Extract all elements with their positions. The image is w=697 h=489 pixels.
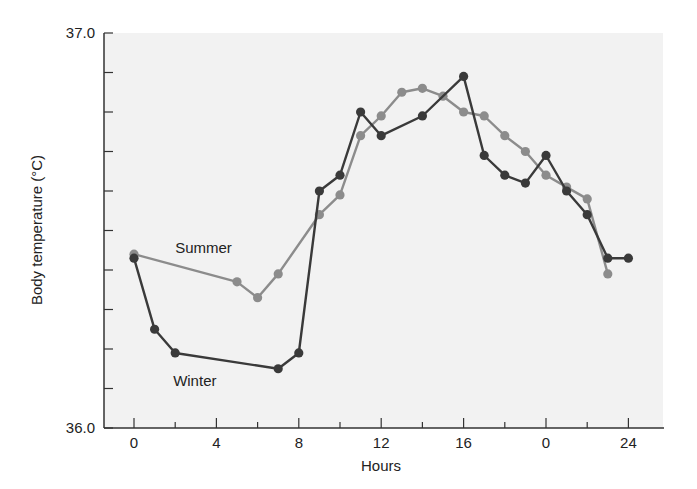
data-point-marker xyxy=(603,254,612,263)
data-point-marker xyxy=(377,111,386,120)
data-point-marker xyxy=(397,88,406,97)
y-axis-title: Body temperature (°C) xyxy=(28,155,45,305)
x-tick-label: 12 xyxy=(373,434,390,451)
data-point-marker xyxy=(583,194,592,203)
plot-background xyxy=(104,33,663,428)
x-tick-label: 24 xyxy=(620,434,637,451)
data-point-marker xyxy=(480,151,489,160)
data-point-marker xyxy=(541,171,550,180)
data-point-marker xyxy=(377,131,386,140)
data-point-marker xyxy=(624,254,633,263)
data-point-marker xyxy=(459,107,468,116)
data-point-marker xyxy=(335,190,344,199)
data-point-marker xyxy=(480,111,489,120)
x-tick-label: 4 xyxy=(212,434,220,451)
data-point-marker xyxy=(541,151,550,160)
data-point-marker xyxy=(171,348,180,357)
data-point-marker xyxy=(583,210,592,219)
x-tick-label: 16 xyxy=(455,434,472,451)
x-tick-label: 0 xyxy=(130,434,138,451)
series-label-winter: Winter xyxy=(173,372,216,389)
data-point-marker xyxy=(418,84,427,93)
x-tick-label: 8 xyxy=(295,434,303,451)
data-point-marker xyxy=(356,131,365,140)
data-point-marker xyxy=(603,269,612,278)
data-point-marker xyxy=(521,179,530,188)
data-point-marker xyxy=(294,348,303,357)
data-point-marker xyxy=(356,107,365,116)
data-point-marker xyxy=(335,171,344,180)
data-point-marker xyxy=(418,111,427,120)
body-temperature-chart: 36.037.00481216024 SummerWinter Body tem… xyxy=(0,0,697,489)
data-point-marker xyxy=(315,186,324,195)
data-point-marker xyxy=(274,364,283,373)
x-axis-title: Hours xyxy=(361,457,401,474)
y-tick-label: 36.0 xyxy=(66,419,95,436)
series-label-summer: Summer xyxy=(175,239,232,256)
y-tick-label: 37.0 xyxy=(66,24,95,41)
data-point-marker xyxy=(459,72,468,81)
data-point-marker xyxy=(562,186,571,195)
data-point-marker xyxy=(232,277,241,286)
data-point-marker xyxy=(129,254,138,263)
data-point-marker xyxy=(521,147,530,156)
data-point-marker xyxy=(500,131,509,140)
data-point-marker xyxy=(500,171,509,180)
x-tick-label: 0 xyxy=(542,434,550,451)
data-point-marker xyxy=(274,269,283,278)
data-point-marker xyxy=(253,293,262,302)
data-point-marker xyxy=(150,325,159,334)
